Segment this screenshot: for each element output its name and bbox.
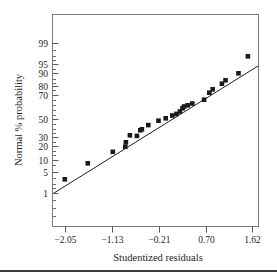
- y-tick-label: 10: [39, 156, 49, 166]
- bottom-divider-rule: [0, 270, 277, 272]
- data-point: [86, 161, 91, 166]
- data-point-group: [63, 54, 251, 182]
- y-tick-label: 70: [39, 91, 49, 101]
- data-point: [190, 101, 195, 106]
- plot-frame: [53, 15, 259, 227]
- data-point: [128, 133, 133, 138]
- data-point: [163, 116, 168, 121]
- plot-canvas: 99 95 90 80 70 50 30 20 10 5 1 −2.05 −1.…: [0, 0, 277, 277]
- normal-fit-line: [54, 66, 258, 193]
- data-point: [236, 71, 241, 76]
- data-point: [246, 54, 251, 59]
- data-point: [202, 97, 207, 102]
- data-point: [223, 78, 228, 83]
- data-point: [210, 87, 215, 92]
- x-tick-label: −2.05: [55, 235, 77, 245]
- x-axis-ticks: [66, 227, 253, 233]
- data-point: [185, 103, 190, 108]
- y-tick-label: 20: [39, 142, 49, 152]
- y-axis-major-ticks: [53, 44, 59, 194]
- x-tick-label: −1.13: [102, 235, 124, 245]
- y-axis-title: Normal % probability: [13, 73, 24, 166]
- x-axis-tick-labels: −2.05 −1.13 −0.21 0.70 1.62: [55, 235, 262, 245]
- y-tick-label: 99: [39, 39, 49, 49]
- x-tick-label: −0.21: [149, 235, 171, 245]
- y-axis-tick-labels: 99 95 90 80 70 50 30 20 10 5 1: [39, 39, 49, 199]
- y-tick-label: 50: [39, 115, 49, 125]
- data-point: [124, 140, 129, 145]
- normal-probability-plot-figure: 99 95 90 80 70 50 30 20 10 5 1 −2.05 −1.…: [0, 0, 277, 277]
- y-tick-label: 1: [43, 189, 48, 199]
- data-point: [123, 145, 128, 150]
- data-point: [140, 127, 145, 132]
- y-tick-label: 5: [43, 168, 48, 178]
- y-tick-label: 90: [39, 69, 49, 79]
- x-tick-label: 1.62: [244, 235, 261, 245]
- data-point: [170, 113, 175, 118]
- data-point: [146, 123, 151, 128]
- x-tick-label: 0.70: [198, 235, 215, 245]
- data-point: [63, 177, 68, 182]
- data-point: [156, 118, 161, 123]
- data-point: [135, 134, 140, 139]
- data-point: [111, 150, 116, 155]
- x-axis-title: Studentized residuals: [113, 252, 203, 263]
